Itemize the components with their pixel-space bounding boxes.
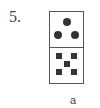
domino-tile: [49, 11, 84, 84]
square-pip-icon: [71, 69, 77, 75]
circle-pip-icon: [63, 18, 71, 26]
circle-pip-icon: [71, 31, 79, 39]
square-pip-icon: [56, 69, 62, 75]
option-label: a: [70, 95, 76, 106]
square-pip-icon: [71, 53, 77, 59]
question-number: 5.: [9, 9, 21, 25]
square-pip-icon: [64, 61, 70, 67]
circle-pip-icon: [54, 31, 62, 39]
domino-bottom-half: [50, 48, 83, 83]
square-pip-icon: [56, 53, 62, 59]
domino-top-half: [50, 12, 83, 48]
